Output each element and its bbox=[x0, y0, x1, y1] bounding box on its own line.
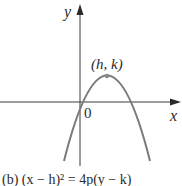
y-axis-arrow-icon bbox=[77, 4, 84, 15]
x-axis-arrow-icon bbox=[170, 99, 181, 106]
figure-caption: (b) (x − h)² = 4p(y − k) bbox=[2, 172, 131, 186]
vertex-point bbox=[105, 74, 109, 78]
origin-label: 0 bbox=[84, 106, 92, 121]
y-axis-label: y bbox=[64, 4, 71, 20]
parabola-diagram bbox=[0, 0, 182, 186]
x-axis-label: x bbox=[170, 108, 177, 124]
parabola-curve bbox=[64, 76, 150, 162]
vertex-label: (h, k) bbox=[91, 57, 123, 72]
